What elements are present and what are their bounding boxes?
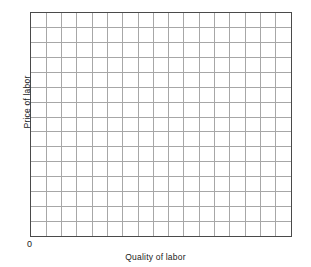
y-axis-label: Price of labor	[22, 27, 32, 177]
grid-lines	[31, 13, 291, 236]
plot-area	[30, 12, 292, 237]
x-axis-label: Quality of labor	[0, 252, 311, 262]
origin-label: 0	[27, 239, 32, 250]
chart-container: Price of labor Quality of labor 0	[0, 0, 311, 267]
